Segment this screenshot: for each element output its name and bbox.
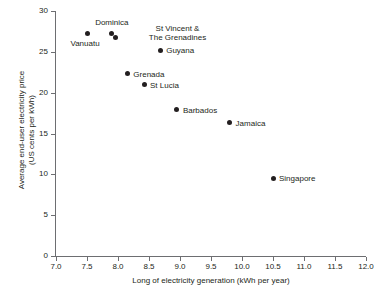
data-point — [271, 176, 276, 181]
x-tick-mark — [118, 257, 119, 261]
data-point-label-line: Grenada — [133, 70, 164, 79]
x-tick-label: 8.5 — [134, 263, 164, 271]
x-tick-mark — [149, 257, 150, 261]
data-point — [113, 35, 118, 40]
data-point-label: Grenada — [133, 70, 164, 79]
data-point-label-line: The Grenadines — [149, 33, 206, 42]
data-point-label-line: Vanuatu — [70, 39, 99, 48]
x-tick-label: 12.0 — [351, 263, 378, 271]
data-point — [142, 82, 147, 87]
x-tick-label: 10.0 — [227, 263, 257, 271]
x-tick-mark — [56, 257, 57, 261]
x-tick-label: 9.0 — [165, 263, 195, 271]
y-axis-title-line-1: Average end-user electricity price — [17, 40, 27, 220]
y-axis-line — [55, 11, 56, 257]
data-point-label: Dominica — [95, 18, 128, 27]
x-tick-mark — [335, 257, 336, 261]
y-axis-title-line-2: (US cents per kWh) — [27, 40, 37, 220]
data-point-label-line: Jamaica — [236, 119, 266, 128]
y-tick-mark — [51, 93, 55, 94]
x-tick-mark — [273, 257, 274, 261]
x-tick-label: 11.5 — [320, 263, 350, 271]
y-tick-label: 30 — [26, 7, 48, 15]
data-point-label: Singapore — [279, 174, 315, 183]
data-point — [158, 48, 163, 53]
data-point-label-line: Singapore — [279, 174, 315, 183]
y-axis-title: Average end-user electricity price (US c… — [17, 40, 37, 220]
y-tick-mark — [51, 52, 55, 53]
y-tick-mark — [51, 256, 55, 257]
scatter-chart: 051015202530 7.07.58.08.59.09.510.010.51… — [0, 0, 378, 293]
x-tick-label: 10.5 — [258, 263, 288, 271]
x-tick-label: 7.0 — [41, 263, 71, 271]
x-tick-mark — [366, 257, 367, 261]
y-tick-mark — [51, 134, 55, 135]
x-tick-label: 9.5 — [196, 263, 226, 271]
x-tick-mark — [211, 257, 212, 261]
data-point-label-line: Barbados — [183, 106, 217, 115]
data-point — [85, 31, 90, 36]
x-axis-title: Long of electricity generation (kWh per … — [56, 276, 366, 286]
data-point-label-line: St Vincent & — [149, 24, 206, 33]
data-point-label-line: Guyana — [166, 46, 194, 55]
y-tick-mark — [51, 174, 55, 175]
data-point-label: Jamaica — [236, 119, 266, 128]
y-tick-mark — [51, 215, 55, 216]
data-point-label: Barbados — [183, 106, 217, 115]
data-point-label-line: St Lucia — [150, 81, 179, 90]
data-point-label: St Lucia — [150, 81, 179, 90]
x-tick-mark — [242, 257, 243, 261]
data-point — [227, 120, 232, 125]
x-tick-mark — [304, 257, 305, 261]
data-point-label: St Vincent &The Grenadines — [149, 24, 206, 42]
data-point — [174, 107, 179, 112]
x-tick-mark — [180, 257, 181, 261]
y-tick-mark — [51, 11, 55, 12]
x-tick-mark — [87, 257, 88, 261]
data-point — [125, 71, 130, 76]
data-point-label: Vanuatu — [70, 39, 99, 48]
x-tick-label: 7.5 — [72, 263, 102, 271]
data-point-label: Guyana — [166, 46, 194, 55]
data-point-label-line: Dominica — [95, 18, 128, 27]
x-tick-label: 11.0 — [289, 263, 319, 271]
y-tick-label: 0 — [26, 252, 48, 260]
x-tick-label: 8.0 — [103, 263, 133, 271]
